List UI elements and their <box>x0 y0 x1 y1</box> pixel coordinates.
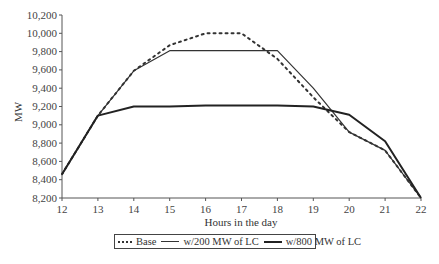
y-tick-label: 8,200 <box>32 192 57 204</box>
y-tick-label: 10,000 <box>27 27 58 39</box>
series-line-thick <box>62 106 421 198</box>
legend-label: w/200 MW of LC <box>183 236 258 247</box>
y-tick-label: 8,600 <box>32 155 57 167</box>
y-axis-title: MW <box>12 101 24 122</box>
y-tick-label: 9,200 <box>32 100 57 112</box>
legend-item-800mw: w/800 MW of LC <box>264 236 361 247</box>
y-axis: 8,2008,4008,6008,8009,0009,2009,4009,600… <box>27 9 62 204</box>
x-tick-label: 15 <box>164 203 176 215</box>
series-lines <box>62 33 421 198</box>
line-chart: 8,2008,4008,6008,8009,0009,2009,4009,600… <box>0 0 439 264</box>
x-tick-label: 20 <box>344 203 356 215</box>
legend: Base w/200 MW of LC w/800 MW of LC <box>114 234 316 249</box>
x-tick-label: 16 <box>200 203 212 215</box>
x-tick-label: 21 <box>380 203 391 215</box>
y-tick-label: 9,800 <box>32 45 57 57</box>
x-tick-label: 13 <box>92 203 104 215</box>
dotted-line-swatch-icon <box>118 241 132 243</box>
x-tick-label: 14 <box>128 203 140 215</box>
x-tick-label: 18 <box>272 203 284 215</box>
y-tick-label: 10,200 <box>27 9 58 21</box>
legend-item-200mw: w/200 MW of LC <box>161 236 258 247</box>
series-line-dotted <box>62 33 421 198</box>
x-axis: 1213141516171819202122 <box>57 198 427 215</box>
x-tick-label: 22 <box>416 203 427 215</box>
x-tick-label: 17 <box>236 203 248 215</box>
legend-item-base: Base <box>118 236 156 247</box>
x-axis-title: Hours in the day <box>204 216 278 228</box>
x-tick-label: 12 <box>57 203 68 215</box>
y-tick-label: 9,400 <box>32 82 57 94</box>
legend-label: w/800 MW of LC <box>286 236 361 247</box>
y-tick-label: 9,000 <box>32 118 57 130</box>
series-line-thin <box>62 51 421 198</box>
thin-line-swatch-icon <box>161 241 179 242</box>
y-tick-label: 9,600 <box>32 63 57 75</box>
x-tick-label: 19 <box>308 203 320 215</box>
y-tick-label: 8,400 <box>32 173 57 185</box>
thick-line-swatch-icon <box>264 241 282 243</box>
legend-label: Base <box>136 236 156 247</box>
y-tick-label: 8,800 <box>32 137 57 149</box>
